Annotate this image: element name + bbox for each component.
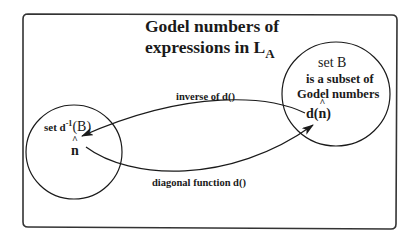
set-dinverse-suffix: (B) [72, 119, 91, 134]
set-b-line-3: Godel numbers [297, 88, 379, 101]
d-of-n-suffix: ) [326, 106, 331, 121]
set-dinverse-prefix: set d [44, 121, 66, 133]
set-b-label: set B [318, 56, 346, 70]
d-of-n-element: d(n) [306, 107, 331, 121]
title-line-2: expressions in LA [145, 39, 275, 57]
title-text-2: expressions in L [145, 37, 265, 57]
title-line-1: Godel numbers of [145, 18, 279, 36]
inverse-arrow [82, 100, 305, 136]
d-of-n-prefix: d( [306, 106, 318, 121]
diagonal-arrow [86, 125, 313, 171]
n-hat-var: n [318, 107, 326, 121]
title-text-1: Godel numbers of [145, 16, 279, 36]
inverse-label: inverse of d() [176, 92, 235, 103]
set-dinverse-label: set d-1(B) [44, 118, 91, 134]
n-hat-left-var: n [71, 144, 79, 158]
title-subscript: A [265, 46, 274, 61]
diagonal-label: diagonal function d() [152, 178, 246, 189]
set-b-line-2: is a subset of [306, 73, 374, 86]
diagram-canvas: Godel numbers of expressions in LA set B… [0, 0, 418, 238]
n-hat-element: n [71, 144, 79, 158]
